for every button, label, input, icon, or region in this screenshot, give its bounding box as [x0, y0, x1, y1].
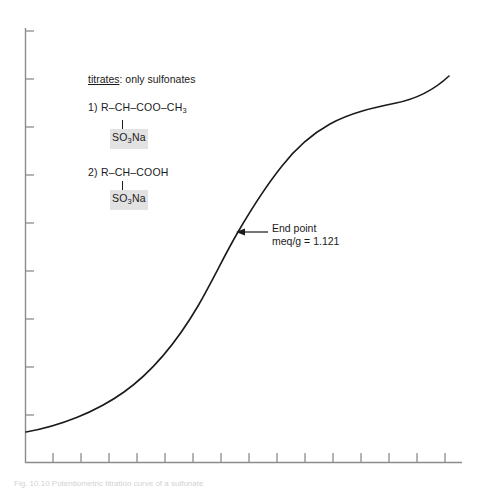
structure-backbone-subscript: 3 — [182, 106, 186, 115]
structure-backbone-text: R–CH–COOH — [101, 166, 169, 178]
sulfonate-post: Na — [132, 192, 146, 204]
sulfonate-pre: SO — [112, 192, 128, 204]
figure-container: titrates: only sulfonates 1) R–CH–COO–CH… — [0, 0, 479, 490]
sulfonate-group-highlight: SO3Na — [110, 129, 148, 149]
titrates-heading: titrates: only sulfonates — [88, 72, 308, 86]
endpoint-callout: End point meq/g = 1.121 — [272, 222, 339, 248]
endpoint-label-line1: End point — [272, 222, 339, 235]
structure-backbone: 1) R–CH–COO–CH3 — [88, 100, 308, 118]
sulfonate-group-highlight: SO3Na — [110, 190, 148, 210]
sulfonate-pre: SO — [112, 131, 128, 143]
structure-index: 1) — [88, 101, 98, 113]
y-axis-ticks — [26, 31, 35, 415]
endpoint-label-line2: meq/g = 1.121 — [272, 235, 339, 248]
substituent-row: SO3Na — [88, 129, 308, 149]
x-axis-ticks — [53, 453, 445, 463]
figure-caption: Fig. 10.10 Potentiometric titration curv… — [14, 479, 203, 488]
titrates-heading-underlined: titrates — [88, 73, 120, 85]
substituent-row: SO3Na — [88, 190, 308, 210]
sulfonate-post: Na — [132, 131, 146, 143]
endpoint-arrow — [236, 229, 268, 236]
structure-backbone-text: R–CH–COO–CH — [101, 101, 183, 113]
structure-backbone: 2) R–CH–COOH — [88, 165, 308, 179]
bond-stem — [122, 120, 123, 129]
structure-item: 1) R–CH–COO–CH3 SO3Na — [88, 100, 308, 149]
titrates-heading-rest: : only sulfonates — [120, 73, 196, 85]
bond-stem-row — [88, 120, 308, 129]
structure-index: 2) — [88, 166, 98, 178]
bond-stem-row — [88, 181, 308, 190]
structure-item: 2) R–CH–COOH SO3Na — [88, 165, 308, 210]
titrates-annotation-block: titrates: only sulfonates 1) R–CH–COO–CH… — [88, 72, 308, 226]
bond-stem — [122, 181, 123, 190]
